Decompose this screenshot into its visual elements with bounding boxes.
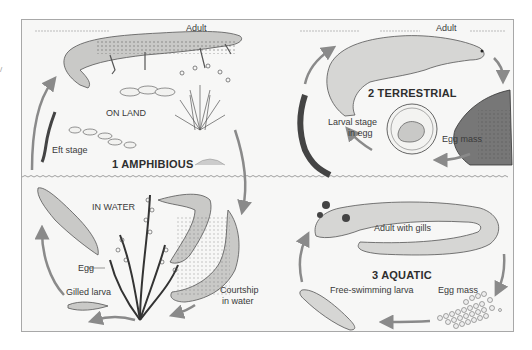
title-amphibious: 1 AMPHIBIOUS [112,159,193,170]
arrow-adult-to-eggmass-aquatic [498,254,504,290]
terrestrial-panel [300,31,512,175]
arrow-larva-to-adult-larva [42,232,64,295]
gilled-larva-small [68,302,108,310]
label-larval-stage-line2: in egg [348,129,373,138]
label-courtship-line1: Courtship [220,286,259,295]
arrow-egg-to-larva [95,317,135,320]
label-terrestrial-adult: Adult [436,24,457,33]
stray-mark: / [0,65,2,74]
amphibious-adult-salamander [64,31,242,88]
label-adult-with-gills: Adult with gills [374,224,431,233]
arrow-adult-to-eggmass [494,58,503,77]
arrow-larva-to-adult-aquatic [300,238,306,282]
label-amphibious-adult: Adult [186,24,207,33]
label-larval-stage-line1: Larval stage [328,118,377,127]
grass-clump [175,64,230,130]
label-free-swimming-larva: Free-swimming larva [330,286,414,295]
label-on-land: ON LAND [106,109,146,118]
terrestrial-adult-salamander [327,36,484,116]
label-terrestrial-egg-mass: Egg mass [442,135,482,144]
label-egg: Egg [78,264,94,273]
arrow-courtship-to-egg [176,305,195,314]
aquatic-panel [300,201,504,330]
arrow-adult-to-water [235,130,245,208]
terrestrial-juvenile [300,95,330,175]
label-aquatic-egg-mass: Egg mass [438,286,478,295]
seaweed-with-eggs [110,195,178,320]
arrow-eggmass-to-larva-aquatic [386,321,430,322]
label-eft-stage: Eft stage [52,146,88,155]
title-aquatic: 3 AQUATIC [372,270,432,281]
aquatic-egg-mass [438,292,502,329]
in-water-larva-large [38,188,99,255]
free-swimming-larva [300,290,355,330]
life-cycle-illustration [0,0,532,350]
arrow-juvenile-to-adult [305,50,330,84]
label-in-water: IN WATER [92,203,135,212]
title-terrestrial: 2 TERRESTRIAL [368,88,457,99]
water-surface-line [22,176,508,178]
label-courtship-line2: in water [222,297,254,306]
label-gilled-larva: Gilled larva [66,288,111,297]
